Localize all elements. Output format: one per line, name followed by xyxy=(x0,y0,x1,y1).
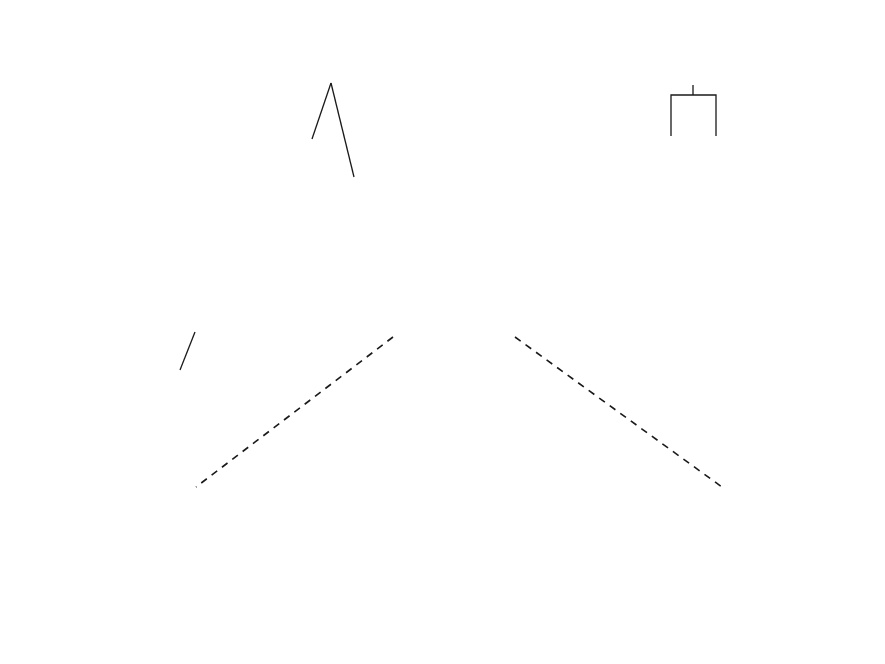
heads-leader-lines xyxy=(312,83,354,177)
collagen-fibril-diagram xyxy=(0,0,885,664)
zoom-dashed-lines xyxy=(196,337,722,487)
cross-striation-bracket xyxy=(671,85,716,136)
gap-leader-line xyxy=(180,332,195,370)
